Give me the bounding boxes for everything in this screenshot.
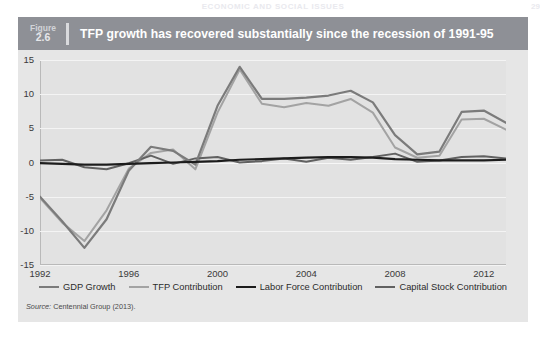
legend-swatch	[236, 286, 256, 288]
x-tick-label: 2012	[454, 268, 514, 279]
x-tick-label: 1992	[10, 268, 70, 279]
y-tick-label: 5	[0, 123, 34, 133]
figure-screenshot: ECONOMIC AND SOCIAL ISSUES 29 Figure 2.6…	[0, 0, 546, 340]
page-number: 29	[531, 0, 540, 11]
legend-item[interactable]: Capital Stock Contribution	[375, 282, 507, 292]
x-tick-label: 2004	[276, 268, 336, 279]
y-tick-label: 0	[0, 158, 34, 168]
page-running-header: ECONOMIC AND SOCIAL ISSUES	[0, 0, 546, 11]
figure-title: TFP growth has recovered substantially s…	[80, 27, 494, 41]
y-tick-label: 10	[0, 89, 34, 99]
legend-label: GDP Growth	[63, 282, 116, 292]
y-tick-label: -10	[0, 226, 34, 236]
x-tick-label: 1996	[99, 268, 159, 279]
series-line-labor-force-contribution	[40, 157, 506, 165]
plot-area	[40, 60, 506, 265]
legend-label: Capital Stock Contribution	[399, 282, 507, 292]
figure-title-bar: Figure 2.6 TFP growth has recovered subs…	[18, 17, 528, 50]
legend-item[interactable]: GDP Growth	[39, 282, 116, 292]
legend-swatch	[129, 286, 149, 288]
legend-item[interactable]: Labor Force Contribution	[236, 282, 363, 292]
y-tick-label: 15	[0, 55, 34, 65]
gridline-y--15	[40, 265, 506, 266]
chart-legend: GDP GrowthTFP ContributionLabor Force Co…	[18, 282, 528, 292]
figure-number: 2.6	[20, 32, 66, 43]
legend-label: TFP Contribution	[153, 282, 223, 292]
source-prefix: Source:	[26, 302, 51, 311]
x-tick-label: 2008	[365, 268, 425, 279]
source-text: Centennial Group (2013).	[53, 302, 135, 311]
series-line-gdp-growth	[40, 67, 506, 248]
chart-panel: 151050-5-10-15 199219962000200420082012 …	[18, 50, 528, 322]
legend-label: Labor Force Contribution	[260, 282, 363, 292]
legend-item[interactable]: TFP Contribution	[129, 282, 223, 292]
x-tick-label: 2000	[188, 268, 248, 279]
y-tick-label: -5	[0, 192, 34, 202]
series-line-tfp-contribution	[40, 70, 506, 242]
source-note: Source: Centennial Group (2013).	[26, 302, 136, 311]
legend-swatch	[375, 286, 395, 288]
figure-number-block: Figure 2.6	[18, 24, 66, 43]
chart-lines	[40, 60, 506, 265]
legend-swatch	[39, 286, 59, 288]
title-divider	[66, 23, 69, 45]
